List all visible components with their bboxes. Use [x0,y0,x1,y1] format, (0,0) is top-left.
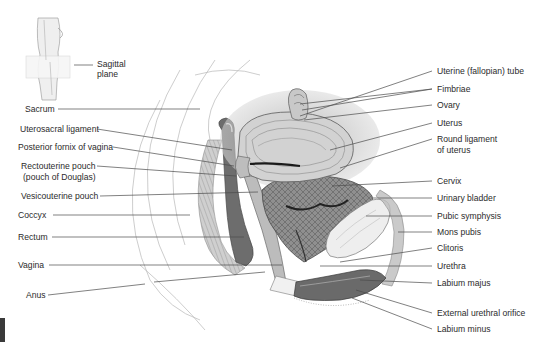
label-uterus: Uterus [437,118,462,128]
uterus [235,112,353,182]
label-sacrum: Sacrum [25,104,55,114]
label-pouch-of-douglas: (pouch of Douglas) [23,172,96,182]
page-edge-marker [0,318,5,342]
label-external-urethral-orifice: External urethral orifice [437,308,525,318]
anatomy-figure: Sagittal plane Sacrum Uterosacral ligame… [0,0,543,352]
inset-label-line1: Sagittal [97,59,126,69]
ovary-and-tube [288,89,308,120]
inset-label-line2: plane [97,69,118,79]
inset-torso [26,18,70,100]
label-uterine-tube: Uterine (fallopian) tube [437,66,524,76]
label-rectum: Rectum [18,232,48,242]
label-clitoris: Clitoris [437,243,463,253]
label-labium-majus: Labium majus [437,278,491,288]
label-cervix: Cervix [437,176,461,186]
label-vagina: Vagina [18,260,44,270]
label-coccyx: Coccyx [18,210,46,220]
label-labium-minus: Labium minus [437,324,491,334]
label-urinary-bladder: Urinary bladder [437,193,496,203]
label-uterosacral-ligament: Uterosacral ligament [20,124,99,134]
label-anus: Anus [26,290,46,300]
label-posterior-fornix: Posterior fornix of vagina [18,142,113,152]
label-ovary: Ovary [437,100,460,110]
label-rectouterine-pouch: Rectouterine pouch [21,161,96,171]
label-of-uterus: of uterus [437,145,470,155]
label-urethra: Urethra [437,261,466,271]
label-fimbriae: Fimbriae [437,84,470,94]
label-round-ligament: Round ligament [437,134,497,144]
label-mons-pubis: Mons pubis [437,227,481,237]
label-vesicouterine-pouch: Vesicouterine pouch [21,191,98,201]
label-pubic-symphysis: Pubic symphysis [437,211,501,221]
